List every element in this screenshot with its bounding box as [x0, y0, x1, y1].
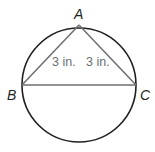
vertex-label-c: C — [140, 87, 151, 103]
vertex-label-b: B — [7, 87, 16, 103]
measurement-ab: 3 in. — [52, 55, 76, 69]
measurement-ac: 3 in. — [86, 55, 110, 69]
diagram-canvas: A B C 3 in. 3 in. — [0, 0, 155, 152]
vertex-label-a: A — [73, 6, 83, 22]
